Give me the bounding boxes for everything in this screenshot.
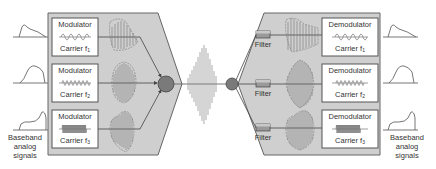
demodulator-1-carrier: Carrier f1 — [322, 44, 378, 53]
fdm-diagram: Modulator Carrier f1 Modulator Carrier f… — [0, 0, 436, 169]
baseband-signals-right — [383, 25, 418, 130]
demodulator-2-carrier: Carrier f2 — [322, 90, 378, 99]
baseband-output-label: Baseband analog signals — [384, 133, 430, 160]
modulator-3-carrier: Carrier f3 — [52, 136, 98, 145]
filter-3-label: Filter — [250, 133, 276, 142]
modulator-2-label: Modulator — [52, 66, 98, 75]
demodulator-3-label: Demodulator — [322, 112, 378, 121]
modulator-2-carrier: Carrier f2 — [52, 90, 98, 99]
demodulator-2-label: Demodulator — [322, 66, 378, 75]
filter-2-label: Filter — [250, 89, 276, 98]
composite-signal — [188, 45, 216, 124]
baseband-signals-left — [13, 25, 48, 130]
combiner-node — [158, 76, 174, 92]
modulator-1-label: Modulator — [52, 20, 98, 29]
demodulator-3-carrier: Carrier f3 — [322, 136, 378, 145]
modulator-1-carrier: Carrier f1 — [52, 44, 98, 53]
baseband-input-label: Baseband analog signals — [2, 133, 48, 160]
demodulator-1-label: Demodulator — [322, 20, 378, 29]
modulator-3-label: Modulator — [52, 112, 98, 121]
filter-1-label: Filter — [250, 40, 276, 49]
